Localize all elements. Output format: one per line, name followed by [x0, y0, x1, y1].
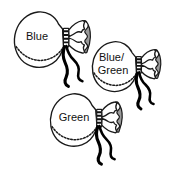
pouch-label-line: Blue — [26, 30, 48, 42]
pouch-label-green: Green — [59, 111, 90, 123]
pouch-label-blue-green: Blue/ Green — [98, 51, 129, 76]
pouch-label-line: Blue/ — [99, 51, 125, 63]
pouch-label-line: Green — [98, 64, 129, 76]
pouch-label-blue: Blue — [26, 30, 48, 42]
sachet-diagram: Blue Blue/ Green Green — [0, 0, 179, 174]
pouch-label-line: Green — [59, 111, 90, 123]
